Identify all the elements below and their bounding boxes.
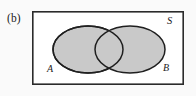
set-a-label: A (47, 64, 53, 74)
set-b-label: B (163, 63, 169, 73)
universal-set-label: S (167, 16, 172, 27)
venn-diagram-figure: (b) S A B (0, 0, 196, 96)
panel-letter-label: (b) (7, 13, 21, 25)
set-b-ellipse (95, 26, 165, 73)
